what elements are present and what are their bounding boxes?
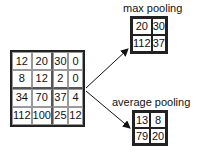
input-cell: 0 (68, 70, 83, 88)
input-cell: 4 (68, 89, 83, 107)
arrow-to-max-pooling (86, 49, 128, 88)
input-cell: 70 (32, 89, 53, 107)
max-pooling-cell: 37 (152, 35, 166, 52)
max-pooling-cell: 20 (132, 18, 152, 35)
max-pooling-cell: 112 (132, 35, 152, 52)
max-pooling-label: max pooling (123, 2, 182, 14)
input-cell: 30 (53, 52, 68, 70)
average-pooling-cell: 20 (150, 128, 166, 144)
input-cell: 25 (53, 107, 68, 125)
input-cell: 20 (32, 52, 53, 70)
average-pooling-cell: 13 (134, 112, 150, 128)
input-cell: 0 (68, 52, 83, 70)
average-pooling-cell: 8 (150, 112, 166, 128)
input-cell: 34 (12, 89, 32, 107)
average-pooling-matrix: 1387920 (132, 110, 168, 146)
input-cell: 100 (32, 107, 53, 125)
input-cell: 112 (12, 107, 32, 125)
input-cell: 12 (12, 52, 32, 70)
max-pooling-matrix: 203011237 (130, 16, 168, 54)
input-cell: 2 (53, 70, 68, 88)
input-matrix: 12203008122034703741121002512 (10, 50, 85, 127)
max-pooling-cell: 30 (152, 18, 166, 35)
average-pooling-cell: 79 (134, 128, 150, 144)
input-cell: 12 (32, 70, 53, 88)
average-pooling-label: average pooling (112, 96, 190, 108)
input-cell: 8 (12, 70, 32, 88)
input-cell: 12 (68, 107, 83, 125)
input-cell: 37 (53, 89, 68, 107)
